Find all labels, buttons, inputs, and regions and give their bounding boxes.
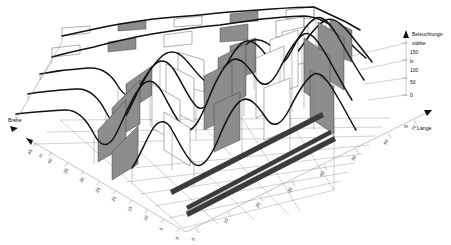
value-tick-150: 150 [410,49,419,55]
length-tick-20: 20 [255,201,262,208]
length-tick-40: 40 [319,170,326,177]
width-tick-0: 0 [175,235,181,240]
legend-title-line1: Beleuchtungs- [412,31,444,37]
width-tick-25: 25 [95,186,102,193]
ridge-band-1 [62,7,360,42]
length-tick-60: 60 [383,138,390,145]
illuminance-3d-figure: 45 m 40 35 30 25 20 15 10 5 0 Breite 0 1… [0,0,451,245]
length-tick-unit: m [404,124,408,129]
length-tick-30: 30 [287,186,294,193]
value-tick-50: 50 [410,79,416,85]
width-tick-20: 20 [111,195,118,202]
value-tick-0: 0 [410,92,413,98]
left-skirt [16,42,62,120]
width-tick-40: 40 [47,157,54,164]
length-tick-10: 10 [223,217,230,224]
surface-plot-canvas: 45 m 40 35 30 25 20 15 10 5 0 Breite 0 1… [0,0,451,245]
legend-title-line2: stärke [412,40,426,46]
length-axis-label: Länge [417,125,432,131]
length-tick-50: 50 [351,154,358,161]
width-tick-15: 15 [127,205,134,212]
width-tick-10: 10 [143,214,150,221]
width-tick-30: 30 [79,176,86,183]
length-tick-0: 0 [191,236,197,241]
width-axis: 45 m 40 35 30 25 20 15 10 5 0 Breite [8,117,186,241]
width-axis-label: Breite [8,117,22,123]
value-axis-legend: Beleuchtungs- stärke 150 lx 100 50 0 [352,30,444,100]
width-tick-5: 5 [159,226,165,231]
width-tick-unit: m [38,153,44,159]
value-axis-unit: lx [410,58,414,64]
value-tick-100: 100 [410,67,419,73]
width-tick-35: 35 [63,167,70,174]
width-tick-45: 45 [27,148,34,155]
